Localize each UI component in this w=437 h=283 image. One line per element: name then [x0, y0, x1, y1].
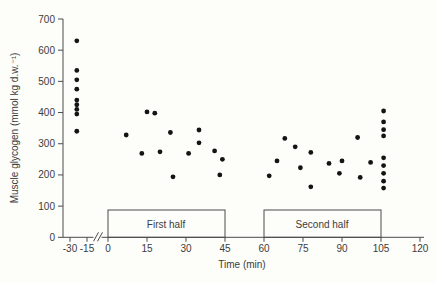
data-point-post-match	[381, 186, 386, 191]
data-point-first-half	[145, 110, 150, 115]
data-point-first-half	[217, 173, 222, 178]
data-point-first-half	[220, 157, 225, 162]
data-point-first-half	[186, 151, 191, 156]
data-point-second-half	[308, 184, 313, 189]
x-tick-label: 75	[297, 243, 309, 254]
data-point-first-half	[139, 151, 144, 156]
data-point-second-half	[275, 158, 280, 163]
data-point-second-half	[308, 150, 313, 155]
x-tick-label: 60	[258, 243, 270, 254]
data-point-post-match	[381, 155, 386, 160]
data-point-pre-match	[74, 129, 79, 134]
data-point-first-half	[197, 140, 202, 145]
half-annotation-box-2	[264, 210, 381, 237]
scatter-chart-figure: 0100200300400500600700-30-15015304560759…	[0, 0, 437, 283]
data-point-post-match	[381, 109, 386, 114]
data-point-pre-match	[74, 87, 79, 92]
y-tick-label: 400	[38, 107, 55, 118]
data-point-second-half	[355, 135, 360, 140]
y-tick-label: 600	[38, 45, 55, 56]
data-point-first-half	[171, 174, 176, 179]
data-point-second-half	[368, 160, 373, 165]
data-point-pre-match	[74, 98, 79, 103]
data-point-first-half	[168, 130, 173, 135]
x-tick-label: 30	[180, 243, 192, 254]
data-point-second-half	[298, 165, 303, 170]
data-point-pre-match	[74, 38, 79, 43]
data-point-post-match	[381, 127, 386, 132]
data-point-second-half	[282, 136, 287, 141]
data-point-pre-match	[74, 102, 79, 107]
data-point-post-match	[381, 134, 386, 139]
x-tick-label: 15	[141, 243, 153, 254]
data-point-second-half	[267, 173, 272, 178]
y-tick-label: 300	[38, 138, 55, 149]
data-point-second-half	[293, 144, 298, 149]
y-tick-label: 200	[38, 169, 55, 180]
data-point-pre-match	[74, 112, 79, 117]
x-tick-label: 45	[219, 243, 231, 254]
x-tick-label: -30	[63, 243, 78, 254]
data-point-post-match	[381, 163, 386, 168]
data-point-second-half	[340, 158, 345, 163]
data-point-pre-match	[74, 107, 79, 112]
data-point-post-match	[381, 120, 386, 125]
x-tick-label: 120	[412, 243, 429, 254]
data-point-second-half	[327, 161, 332, 166]
half-annotation-box-1	[108, 210, 225, 237]
data-point-second-half	[358, 175, 363, 180]
x-tick-label: 105	[373, 243, 390, 254]
data-point-post-match	[381, 179, 386, 184]
x-tick-label: 0	[105, 243, 111, 254]
y-tick-label: 500	[38, 76, 55, 87]
data-point-first-half	[152, 111, 157, 116]
y-tick-label: 0	[49, 232, 55, 243]
data-point-first-half	[212, 149, 217, 154]
y-tick-label: 700	[38, 14, 55, 25]
data-point-first-half	[158, 149, 163, 154]
data-point-pre-match	[74, 68, 79, 73]
data-point-pre-match	[74, 77, 79, 82]
data-point-first-half	[124, 133, 129, 138]
data-point-post-match	[381, 171, 386, 176]
scatter-plot: 0100200300400500600700-30-15015304560759…	[0, 0, 437, 283]
y-tick-label: 100	[38, 201, 55, 212]
x-tick-label: 90	[336, 243, 348, 254]
x-tick-label: -15	[80, 243, 95, 254]
data-point-second-half	[337, 171, 342, 176]
data-point-first-half	[197, 128, 202, 133]
